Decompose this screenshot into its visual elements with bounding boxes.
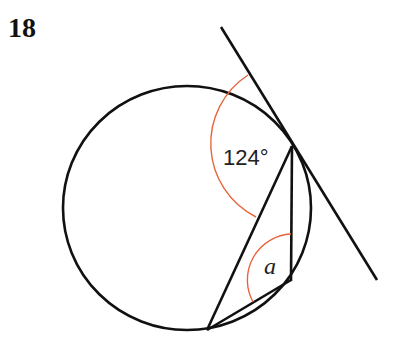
chord-tangent-to-bottom bbox=[207, 146, 292, 330]
chord-vertical bbox=[291, 146, 292, 281]
circle bbox=[63, 86, 311, 330]
angle-label-a: a bbox=[264, 253, 276, 279]
geometry-diagram: 124° a bbox=[0, 0, 394, 350]
angle-label-124: 124° bbox=[223, 145, 269, 170]
